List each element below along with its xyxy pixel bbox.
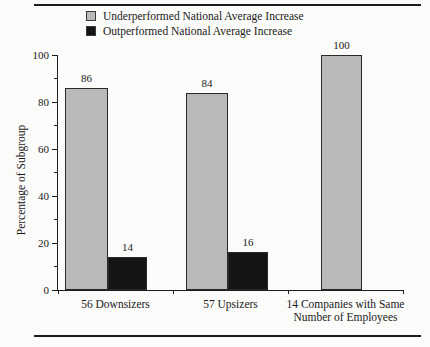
y-axis-minor-tick xyxy=(54,219,57,220)
y-axis-major-tick xyxy=(52,55,57,56)
underperformed-swatch-icon xyxy=(86,11,96,21)
y-axis-title: Percentage of Subgroup xyxy=(15,125,27,236)
outperformed-bar xyxy=(108,257,147,290)
plot-area: 020406080100861456 Downsizers841657 Upsi… xyxy=(57,55,403,291)
y-axis-tick-label: 0 xyxy=(44,284,50,296)
legend-item-outperformed: Outperformed National Average Increase xyxy=(86,24,304,38)
bottom-rule xyxy=(34,335,421,337)
outperformed-bar xyxy=(228,252,268,290)
bar-value-label: 16 xyxy=(228,236,268,248)
y-axis-tick-label: 20 xyxy=(38,237,49,249)
y-axis-tick-label: 80 xyxy=(38,96,49,108)
y-axis-tick-label: 100 xyxy=(33,49,50,61)
y-axis-major-tick xyxy=(52,149,57,150)
y-axis-minor-tick xyxy=(54,125,57,126)
y-axis-major-tick xyxy=(52,102,57,103)
x-axis-tick xyxy=(58,290,59,294)
y-axis-major-tick xyxy=(52,243,57,244)
legend-item-underperformed: Underperformed National Average Increase xyxy=(86,9,304,23)
x-axis-tick xyxy=(173,290,174,294)
bar-value-label: 14 xyxy=(108,241,148,253)
bar-value-label: 86 xyxy=(67,72,107,84)
y-axis-minor-tick xyxy=(54,266,57,267)
x-axis-tick xyxy=(403,290,404,294)
y-axis-major-tick xyxy=(52,196,57,197)
legend: Underperformed National Average Increase… xyxy=(86,9,304,38)
top-rule xyxy=(34,4,421,6)
x-axis-category-label: 14 Companies with Same Number of Employe… xyxy=(278,298,414,324)
y-axis-major-tick xyxy=(52,290,57,291)
bar-value-label: 84 xyxy=(187,77,227,89)
y-axis-tick-label: 40 xyxy=(38,190,49,202)
legend-label-underperformed: Underperformed National Average Increase xyxy=(103,10,304,23)
bar-value-label: 100 xyxy=(322,39,362,51)
underperformed-bar xyxy=(186,93,228,290)
underperformed-bar xyxy=(65,88,108,290)
y-axis-minor-tick xyxy=(54,172,57,173)
outperformed-swatch-icon xyxy=(86,26,96,36)
bar-chart-figure: Underperformed National Average Increase… xyxy=(0,0,430,347)
y-axis-tick-label: 60 xyxy=(38,143,49,155)
y-axis-minor-tick xyxy=(54,78,57,79)
legend-label-outperformed: Outperformed National Average Increase xyxy=(103,25,292,38)
underperformed-bar xyxy=(321,55,362,290)
x-axis-tick xyxy=(288,290,289,294)
